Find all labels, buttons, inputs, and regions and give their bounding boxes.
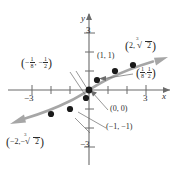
y-tick-label-3: 3 [86, 26, 91, 35]
x-tick-label-neg3: −3 [24, 94, 34, 103]
y-tick-label-neg3: −3 [80, 140, 90, 149]
label-eighth-half: (18,12) [136, 66, 156, 80]
point-neg-two [48, 111, 54, 117]
x-tick-label-3: 3 [143, 94, 148, 103]
label-neg-two-neg-cbrt-two: (−2,−3√2) [6, 136, 44, 148]
label-one-one: (1, 1) [97, 52, 114, 60]
point-origin [86, 87, 93, 94]
label-neg-eighth-neg-half: (−18, −12) [21, 56, 52, 70]
leader-neg-eighth-2 [76, 71, 88, 90]
y-axis-arrow [86, 13, 92, 20]
x-axis-label: x [162, 92, 166, 101]
point-neg-one [67, 106, 73, 112]
curve-left-arrow [10, 115, 26, 125]
cube-root-graph-figure: y x 3 −3 −3 3 (−18, −12) (1, 1) (2, 3√2)… [0, 0, 183, 173]
label-neg-one-neg-one: (−1, −1) [106, 123, 132, 131]
point-eighth-half [94, 77, 100, 83]
label-origin: (0, 0) [110, 105, 127, 113]
y-axis-label: y [81, 14, 85, 23]
point-one-one [112, 68, 118, 74]
leader-neg-one-2 [75, 118, 90, 133]
label-two-cbrt-two: (2, 3√2) [125, 40, 156, 52]
point-neg-eighth [83, 95, 89, 101]
leader-neg-eighth [70, 72, 86, 96]
curve-right-arrow [154, 57, 168, 66]
